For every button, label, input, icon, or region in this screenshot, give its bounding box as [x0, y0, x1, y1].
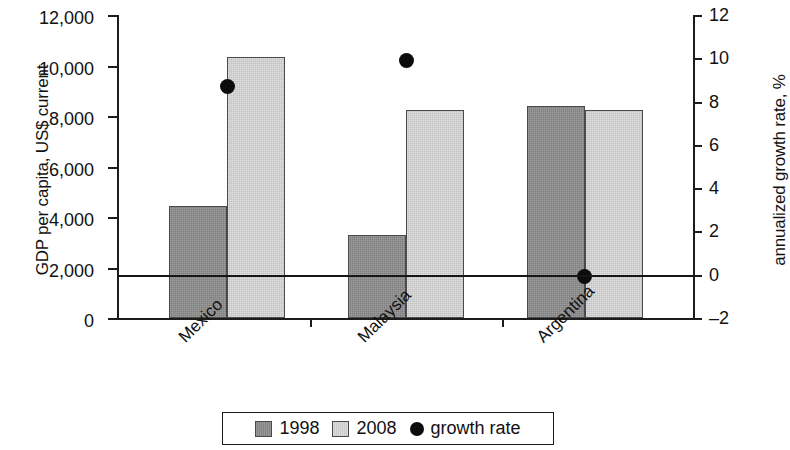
- plot-area: 12,00010,0008,0006,0004,0002,0000 121086…: [117, 15, 695, 320]
- right-tick-label: 8: [709, 91, 719, 112]
- chart-legend: 1998 2008 growth rate: [222, 412, 554, 445]
- legend-label-growth-rate: growth rate: [431, 418, 521, 439]
- category-separator-tick: [310, 318, 312, 327]
- legend-swatch-1998-icon: [255, 421, 272, 437]
- left-tick: 0: [108, 318, 117, 320]
- growth-rate-marker-mexico: [220, 79, 235, 94]
- left-tick: 4,000: [108, 217, 117, 219]
- right-tick-label: 12: [709, 5, 729, 26]
- legend-item-growth-rate: growth rate: [410, 418, 521, 439]
- right-tick-label: 0: [709, 264, 719, 285]
- left-tick-label: 0: [84, 311, 94, 332]
- right-axis-title: annualized growth rate, %: [770, 10, 790, 330]
- right-tick: [693, 318, 702, 320]
- bar-malaysia-2008: [406, 110, 464, 318]
- left-tick: 10,000: [108, 66, 117, 68]
- left-tick-label: 8,000: [49, 109, 94, 130]
- right-tick-label: 6: [709, 134, 719, 155]
- bar-argentina-1998: [527, 106, 585, 318]
- left-tick: 2,000: [108, 268, 117, 270]
- right-tick-label: –2: [709, 308, 729, 329]
- right-tick: [693, 102, 702, 104]
- left-tick-label: 6,000: [49, 159, 94, 180]
- right-tick: [693, 188, 702, 190]
- left-tick: 12,000: [108, 15, 117, 17]
- right-tick: [693, 145, 702, 147]
- bar-mexico-2008: [227, 57, 285, 318]
- zero-growth-reference-line: [117, 275, 695, 277]
- legend-label-2008: 2008: [356, 418, 396, 439]
- right-tick: [693, 58, 702, 60]
- legend-label-1998: 1998: [279, 418, 319, 439]
- legend-swatch-2008-icon: [332, 421, 349, 437]
- growth-rate-marker-malaysia: [399, 53, 414, 68]
- left-tick: 6,000: [108, 167, 117, 169]
- left-tick-label: 2,000: [49, 260, 94, 281]
- legend-item-2008: 2008: [332, 418, 396, 439]
- left-tick-label: 10,000: [39, 58, 94, 79]
- bar-argentina-2008: [585, 110, 643, 318]
- legend-item-1998: 1998: [255, 418, 319, 439]
- legend-circle-marker-icon: [410, 422, 424, 436]
- right-tick-label: 2: [709, 221, 719, 242]
- right-tick: [693, 15, 702, 17]
- category-separator-tick: [502, 318, 504, 327]
- right-tick-label: 10: [709, 48, 729, 69]
- right-tick-label: 4: [709, 178, 719, 199]
- left-tick-label: 12,000: [39, 8, 94, 29]
- left-tick: 8,000: [108, 116, 117, 118]
- right-tick: [693, 231, 702, 233]
- left-tick-label: 4,000: [49, 210, 94, 231]
